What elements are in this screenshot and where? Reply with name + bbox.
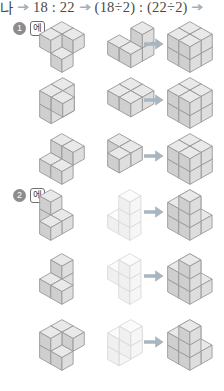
assembly-row: [0, 132, 224, 188]
formula-ratio-1: 18 : 22: [33, 0, 75, 15]
shape-a: [38, 318, 100, 374]
arrow-right-icon: [143, 92, 165, 112]
shape-result: [166, 252, 224, 308]
arrow-right-icon: [143, 148, 165, 168]
shape-a: [38, 132, 100, 188]
shape-result: [166, 318, 224, 374]
formula-prefix: 나: [0, 1, 13, 15]
assembly-row: [0, 76, 224, 132]
shape-result: [166, 20, 224, 76]
arrow-right-icon: ➜: [191, 0, 204, 15]
shape-result: [166, 132, 224, 188]
arrow-right-icon: [143, 334, 165, 354]
arrow-right-icon: ➜: [78, 0, 91, 15]
shape-result: [166, 188, 224, 244]
shape-a: [38, 252, 100, 308]
arrow-right-icon: [143, 268, 165, 288]
top-formula-line: 나 ➜ 18 : 22 ➜ (18÷2) : (22÷2) ➜: [0, 0, 224, 15]
shape-result: [166, 76, 224, 132]
assembly-row: [0, 318, 224, 374]
arrow-right-icon: [143, 36, 165, 56]
arrow-right-icon: ➜: [17, 0, 30, 15]
assembly-row: [0, 20, 224, 76]
formula-ratio-2: (18÷2) : (22÷2): [95, 0, 188, 15]
shape-a: [38, 188, 100, 244]
assembly-row: [0, 188, 224, 244]
shape-a: [38, 20, 100, 76]
shape-a: [38, 76, 100, 132]
assembly-row: [0, 252, 224, 308]
arrow-right-icon: [143, 204, 165, 224]
